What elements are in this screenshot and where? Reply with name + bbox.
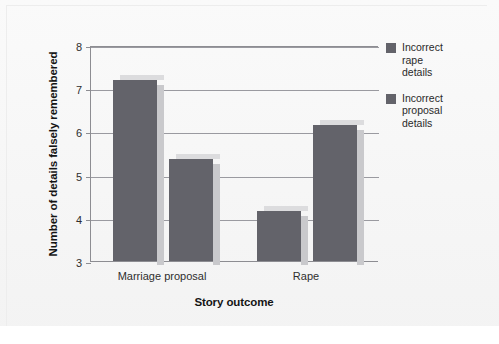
bar [313,125,357,261]
plot-area: 345678 [90,46,378,262]
y-axis-tick [86,133,91,134]
legend-item: Incorrect rape details [386,41,494,79]
y-axis-tick [86,177,91,178]
legend-item: Incorrect proposal details [386,92,494,130]
y-axis-tick [86,220,91,221]
bar-shadow [213,164,220,265]
legend-label: Incorrect proposal details [402,92,443,130]
bar-shadow [301,216,308,265]
bar [169,159,213,261]
y-axis-tick-label: 3 [76,257,82,269]
y-axis-tick-label: 4 [76,214,82,226]
bar [257,211,301,261]
legend-label: Incorrect rape details [402,41,443,79]
y-axis-tick-label: 6 [76,127,82,139]
y-axis-tick [86,47,91,48]
legend: Incorrect rape detailsIncorrect proposal… [386,41,494,142]
bar-shadow-top [264,206,308,211]
gridline [91,47,379,48]
y-axis-tick-label: 5 [76,171,82,183]
legend-swatch-icon [386,43,396,53]
x-axis-tick-label: Rape [293,270,319,282]
y-axis-tick-label: 8 [76,41,82,53]
y-axis-tick [86,263,91,264]
bar-shadow-top [120,75,164,80]
bar-shadow [157,85,164,265]
x-axis-title: Story outcome [90,296,378,308]
bar-shadow-top [320,120,364,125]
legend-swatch-icon [386,94,396,104]
bar [113,80,157,261]
chart-screenshot: Number of details falsely remembered 345… [0,0,499,344]
bar-chart: Number of details falsely remembered 345… [0,0,499,344]
y-axis-title: Number of details falsely remembered [44,46,62,262]
x-axis-tick-label: Marriage proposal [118,270,207,282]
y-axis-tick [86,90,91,91]
y-axis-tick-label: 7 [76,84,82,96]
bar-shadow-top [176,154,220,159]
bar-shadow [357,130,364,265]
